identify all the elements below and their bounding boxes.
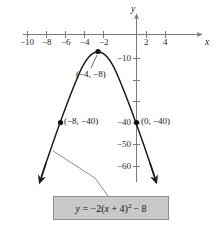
left-point-label: (−8, −40): [64, 117, 98, 126]
x-tick-label-4: 4: [163, 38, 168, 47]
graph-canvas: [0, 0, 217, 228]
y-axis: [133, 14, 140, 182]
x-axis-label: x: [205, 38, 209, 48]
y-tick-label--40: −40: [117, 118, 131, 127]
x-tick-label--6: −6: [61, 38, 71, 47]
y-tick-label--10: −10: [117, 54, 131, 63]
vertex-leader-line: [91, 55, 97, 68]
x-tick-label--2: −2: [99, 38, 109, 47]
equation-text: y = −2(x + 4)2 − 8: [75, 203, 146, 214]
parabola-graph-figure: y x −10 −8 −6 −4 −2 2 4 −10 −40 −50 −60 …: [0, 0, 217, 228]
y-intercept-point-label: (0, −40): [141, 117, 170, 126]
vertex-point-label: (−4, −8): [76, 70, 106, 79]
point-left: [58, 120, 63, 125]
point-vertex: [95, 49, 100, 54]
x-tick-label--10: −10: [20, 38, 34, 47]
y-axis-label: y: [131, 5, 135, 15]
equation-callout-box: y = −2(x + 4)2 − 8: [53, 196, 169, 220]
x-tick-label-2: 2: [144, 38, 149, 47]
x-tick-label--8: −8: [42, 38, 52, 47]
y-tick-label--50: −50: [117, 140, 131, 149]
point-y-intercept: [134, 120, 139, 125]
x-tick-label--4: −4: [80, 38, 90, 47]
y-tick-label--60: −60: [117, 162, 131, 171]
equation-leader-line: [53, 151, 108, 196]
